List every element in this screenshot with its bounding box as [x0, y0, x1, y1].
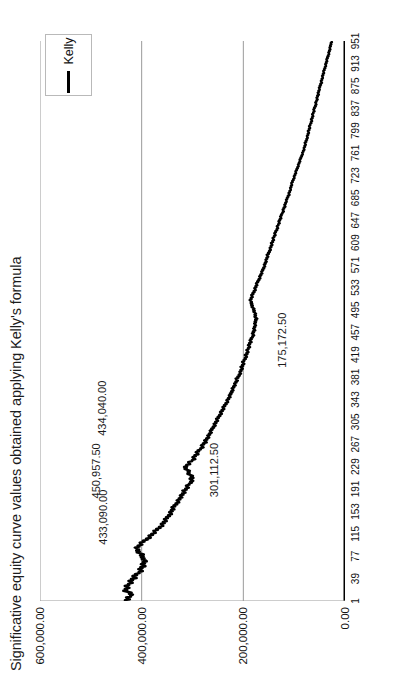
- plot-area: [40, 41, 345, 601]
- x-tick-label: 153: [350, 503, 361, 520]
- x-tick-label: 419: [350, 346, 361, 363]
- data-label: 434,040.00: [96, 381, 108, 436]
- x-tick-label: 343: [350, 391, 361, 408]
- x-tick-label: 609: [350, 234, 361, 251]
- series-lines: [123, 41, 332, 601]
- x-tick-label: 837: [350, 100, 361, 117]
- y-tick-label: 400,000.00: [136, 607, 148, 687]
- x-tick-label: 647: [350, 212, 361, 229]
- chart-figure: Significative equity curve values obtain…: [0, 0, 409, 697]
- x-tick-label: 913: [350, 55, 361, 72]
- x-tick-label: 39: [350, 573, 361, 584]
- x-tick-label: 951: [350, 33, 361, 50]
- x-tick-label: 191: [350, 481, 361, 498]
- axis-lines: [40, 41, 345, 601]
- series-line-kelly: [123, 41, 332, 601]
- equity-curve-svg: [40, 41, 345, 601]
- x-tick-label: 267: [350, 436, 361, 453]
- x-tick-label: 533: [350, 279, 361, 296]
- x-tick-label: 571: [350, 257, 361, 274]
- x-tick-label: 685: [350, 189, 361, 206]
- x-tick-label: 495: [350, 301, 361, 318]
- x-tick-label: 305: [350, 413, 361, 430]
- data-label: 450,957.50: [90, 443, 102, 498]
- data-label: 301,112.50: [208, 443, 220, 497]
- x-tick-label: 1: [350, 598, 361, 604]
- page-title: Significative equity curve values obtain…: [8, 257, 24, 671]
- x-tick-label: 115: [350, 526, 361, 542]
- x-tick-label: 799: [350, 122, 361, 139]
- x-tick-label: 457: [350, 324, 361, 341]
- data-label: 175,172.50: [276, 313, 288, 368]
- x-tick-label: 77: [350, 551, 361, 562]
- x-tick-label: 381: [350, 369, 361, 386]
- x-tick-label: 761: [350, 145, 361, 162]
- x-tick-label: 723: [350, 167, 361, 184]
- gridlines: [40, 41, 243, 601]
- y-tick-label: 200,000.00: [237, 607, 249, 687]
- x-tick-label: 229: [350, 458, 361, 475]
- y-tick-label: 0.00: [339, 607, 351, 687]
- y-tick-label: 600,000.00: [34, 607, 46, 687]
- x-tick-label: 875: [350, 77, 361, 94]
